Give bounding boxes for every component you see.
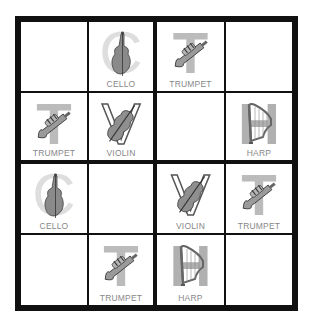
cell-empty[interactable]: [226, 235, 292, 305]
trumpet-icon: [237, 172, 281, 218]
trumpet-icon: [99, 243, 143, 289]
trumpet-icon: [32, 101, 76, 147]
cell-trumpet[interactable]: TTRUMPET: [157, 22, 224, 91]
cell-harp[interactable]: HHARP: [157, 235, 224, 305]
cell-harp[interactable]: HHARP: [226, 93, 292, 160]
cell-trumpet[interactable]: TTRUMPET: [21, 93, 87, 160]
cell-cello[interactable]: CCELLO: [89, 22, 153, 91]
cell-label: CELLO: [89, 79, 153, 89]
cell-trumpet[interactable]: TTRUMPET: [226, 164, 292, 233]
cell-label: TRUMPET: [157, 79, 224, 89]
cell-cello[interactable]: CCELLO: [21, 164, 87, 233]
grid-line-h2-thick: [21, 160, 292, 164]
cello-icon: [99, 30, 143, 76]
grid-line-h1: [21, 91, 292, 93]
cell-label: VIOLIN: [89, 148, 153, 158]
cell-empty[interactable]: [89, 164, 153, 233]
cell-label: TRUMPET: [89, 293, 153, 303]
cell-label: HARP: [226, 148, 292, 158]
harp-icon: [237, 101, 281, 147]
sudoku-board: HHARPTTRUMPETTTRUMPETVVIOLINCCELLOHHARPV…: [15, 16, 298, 311]
trumpet-icon: [169, 30, 213, 76]
cello-icon: [32, 172, 76, 218]
cell-label: HARP: [157, 293, 224, 303]
cell-empty[interactable]: [157, 93, 224, 160]
cell-empty[interactable]: [21, 22, 87, 91]
cell-empty[interactable]: [21, 235, 87, 305]
violin-icon: [169, 172, 213, 218]
cell-label: VIOLIN: [157, 221, 224, 231]
grid-line-h3: [21, 233, 292, 235]
cell-violin[interactable]: VVIOLIN: [89, 93, 153, 160]
cell-empty[interactable]: [226, 22, 292, 91]
violin-icon: [99, 101, 143, 147]
cell-violin[interactable]: VVIOLIN: [157, 164, 224, 233]
harp-icon: [169, 243, 213, 289]
cell-label: TRUMPET: [226, 221, 292, 231]
cell-trumpet[interactable]: TTRUMPET: [89, 235, 153, 305]
cell-label: TRUMPET: [21, 148, 87, 158]
cell-label: CELLO: [21, 221, 87, 231]
